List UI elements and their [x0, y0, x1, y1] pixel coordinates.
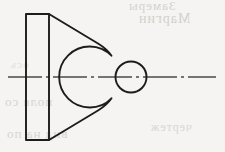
- part-outline-svg: [0, 0, 225, 152]
- technical-drawing-canvas: Замеры Маргин поля со вид на по чертеж о…: [0, 0, 225, 152]
